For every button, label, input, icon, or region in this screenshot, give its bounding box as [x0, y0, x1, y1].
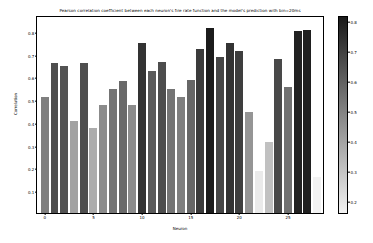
colorbar-tick-mark — [348, 22, 350, 23]
bar — [245, 112, 253, 213]
figure-canvas: Pearson correlation coefficient between … — [0, 0, 373, 243]
y-axis-tick-mark — [35, 55, 37, 56]
x-axis-label: Neuron — [36, 226, 324, 231]
bar — [119, 81, 127, 213]
plot-axes: 0.10.20.30.40.50.60.70.80510152025 — [36, 16, 324, 214]
bar — [99, 105, 107, 213]
y-axis-tick-mark — [35, 146, 37, 147]
x-axis-tick-mark — [288, 213, 289, 215]
bar — [284, 87, 292, 213]
colorbar-tick-mark — [348, 142, 350, 143]
bar — [265, 142, 273, 213]
x-axis-tick-mark — [190, 213, 191, 215]
bar — [109, 89, 117, 213]
bar — [177, 97, 185, 213]
colorbar-tick-mark — [348, 52, 350, 53]
colorbar-tick-mark — [348, 112, 350, 113]
bar — [226, 43, 234, 213]
bar — [138, 43, 146, 213]
y-axis-label: Correlation — [13, 93, 18, 115]
bar — [70, 121, 78, 213]
y-axis-tick-mark — [35, 78, 37, 79]
colorbar-tick-mark — [348, 82, 350, 83]
chart-title: Pearson correlation coefficient between … — [36, 8, 324, 13]
bar — [274, 59, 282, 213]
bar — [89, 128, 97, 213]
x-axis-tick-mark — [44, 213, 45, 215]
bar — [313, 177, 321, 213]
bar — [303, 30, 311, 213]
colorbar-tick-mark — [348, 172, 350, 173]
bar — [60, 66, 68, 213]
bar — [158, 62, 166, 213]
bar — [187, 80, 195, 213]
bar — [41, 97, 49, 213]
x-axis-tick-mark — [239, 213, 240, 215]
colorbar-gradient — [338, 16, 348, 214]
colorbar-tick-mark — [348, 202, 350, 203]
bar — [80, 63, 88, 213]
y-axis-tick-mark — [35, 101, 37, 102]
bar — [235, 51, 243, 213]
bar — [167, 89, 175, 213]
y-axis-tick-mark — [35, 169, 37, 170]
y-axis-tick-mark — [35, 33, 37, 34]
bar — [148, 71, 156, 213]
colorbar: 0.20.30.40.50.60.70.8 — [338, 16, 348, 214]
y-axis-tick-mark — [35, 124, 37, 125]
x-axis-tick-mark — [142, 213, 143, 215]
y-axis-tick-mark — [35, 192, 37, 193]
bar — [206, 28, 214, 213]
bar — [51, 63, 59, 213]
bar — [128, 105, 136, 213]
bar — [216, 57, 224, 213]
bar — [196, 49, 204, 213]
bar — [294, 31, 302, 213]
x-axis-tick-mark — [93, 213, 94, 215]
bars-container — [37, 17, 323, 213]
bar — [255, 171, 263, 213]
